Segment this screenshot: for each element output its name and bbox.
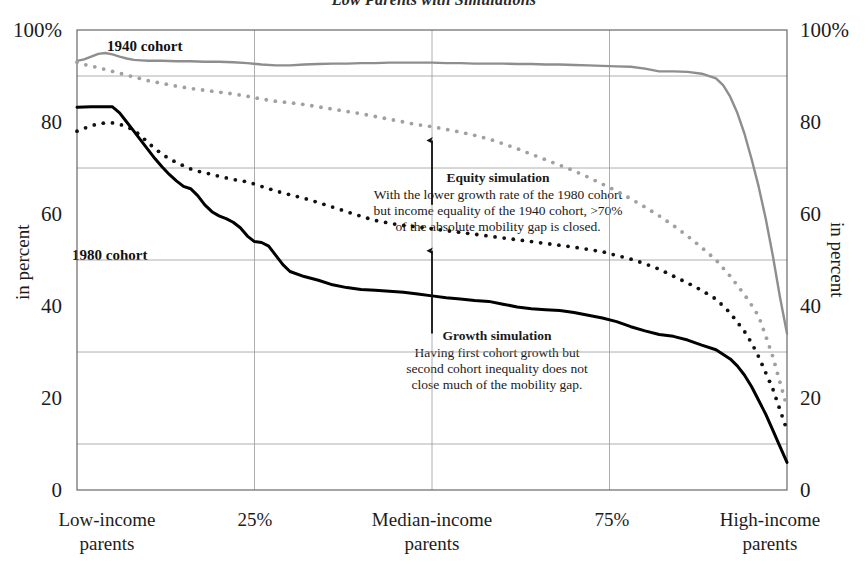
series-growth-simulation <box>75 121 787 426</box>
plot-canvas <box>0 0 868 575</box>
series-layer <box>75 53 787 462</box>
series-equity-simulation <box>75 60 787 401</box>
chart-figure: Low Parents with Simulations 100% 80 60 … <box>0 0 868 575</box>
